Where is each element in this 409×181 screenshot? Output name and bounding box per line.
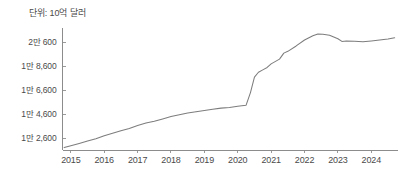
chart-container: 단위: 10억 달러 1만 2,6001만 4,6001만 6,6001만 8,… [0, 0, 409, 181]
line-chart-plot: 1만 2,6001만 4,6001만 6,6001만 8,6002만 600 2… [0, 0, 409, 181]
y-tick-label: 1만 6,600 [21, 85, 57, 95]
y-tick-label: 1만 4,600 [21, 109, 57, 119]
x-tick-label: 2017 [128, 155, 148, 165]
x-tick-label: 2021 [261, 155, 281, 165]
x-tick-label: 2016 [95, 155, 115, 165]
x-tick-label: 2018 [161, 155, 181, 165]
x-tick-label: 2024 [362, 155, 382, 165]
x-tick-label: 2020 [228, 155, 248, 165]
x-axis-tick-labels: 2015201620172018201920202021202220232024 [61, 155, 381, 165]
x-tick-label: 2019 [195, 155, 215, 165]
y-axis-tick-labels: 1만 2,6001만 4,6001만 6,6001만 8,6002만 600 [21, 37, 57, 143]
x-tick-label: 2015 [61, 155, 81, 165]
data-series-line [64, 34, 394, 148]
y-tick-label: 1만 8,600 [21, 61, 57, 71]
y-tick-label: 2만 600 [28, 37, 57, 47]
x-tick-label: 2023 [328, 155, 348, 165]
y-tick-label: 1만 2,600 [21, 133, 57, 143]
x-tick-label: 2022 [295, 155, 315, 165]
